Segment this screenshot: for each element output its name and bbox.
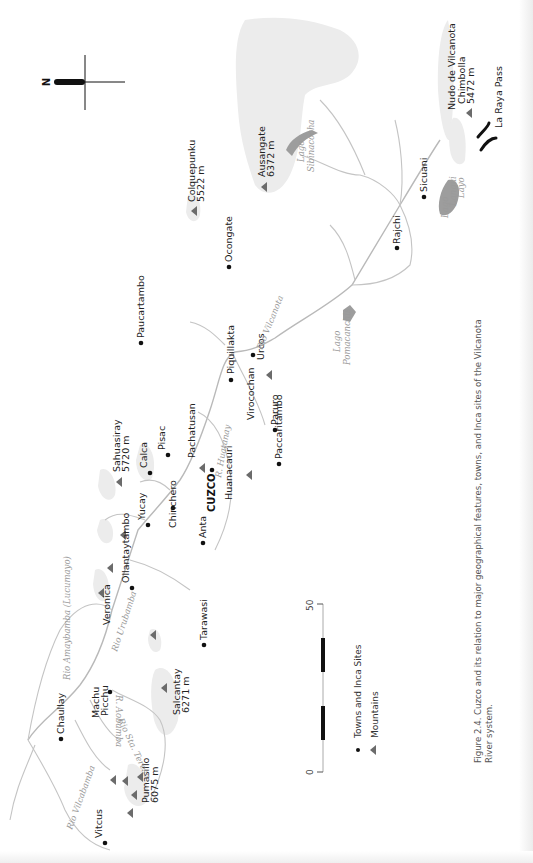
town-markers xyxy=(59,195,427,846)
town-label-sicuani: Sicuani xyxy=(418,158,429,192)
page-edge-shadow xyxy=(519,0,533,863)
mountain-label-pachatusan: Pachatusan xyxy=(186,403,197,458)
town-dot xyxy=(103,841,108,846)
legend-mountains-label: Mountains xyxy=(370,691,380,738)
mountain-elev-salcantay: 6271 m xyxy=(180,677,191,713)
mountain-icon xyxy=(466,108,472,118)
legend: Towns and Inca Sites Mountains xyxy=(353,644,380,755)
town-dot xyxy=(130,586,135,591)
town-dot xyxy=(277,462,282,467)
town-dot xyxy=(148,471,153,476)
lake-label-pomacanchis-1: Lago xyxy=(332,331,342,353)
mountain-elev-sahuasiray: 5720 m xyxy=(120,436,131,472)
mountain-icon xyxy=(107,563,113,573)
pass-label: La Raya Pass xyxy=(493,66,504,128)
town-label-yucay: Yucay xyxy=(136,492,147,521)
mountain-icon xyxy=(266,370,272,380)
town-label-chinchero: Chinchero xyxy=(167,480,178,528)
town-dot xyxy=(227,265,232,270)
figure-caption: Figure 2.4. Cuzco and its relation to ma… xyxy=(473,319,494,763)
north-arrow: N xyxy=(41,55,125,110)
water-labels: Rio Vilcanota R. Huatanay Rio Urubamba R… xyxy=(62,120,466,832)
town-dot xyxy=(146,523,151,528)
town-dot xyxy=(139,341,144,346)
lake-label-langui-3: Layo xyxy=(456,177,466,199)
town-label-chaullay: Chaullay xyxy=(55,692,66,734)
scale-bar: 0 50 xyxy=(305,599,325,775)
town-label-ollantaytambo: Ollantaytambo xyxy=(120,512,131,583)
town-label-cuzco: CUZCO xyxy=(206,473,217,512)
mountain-label-veronica: Veronica xyxy=(101,584,112,625)
town-label-vitcus: Vitcus xyxy=(93,809,104,838)
legend-towns-label: Towns and Inca Sites xyxy=(353,644,363,739)
river-label-amaybamba: Rio Amaybamba (Lucumayo) xyxy=(62,556,72,681)
town-dot xyxy=(422,195,427,200)
scale-start-label: 0 xyxy=(305,769,315,775)
north-label: N xyxy=(41,78,52,86)
mountain-elev-ausangate: 6372 m xyxy=(265,141,276,177)
legend-mountain-icon xyxy=(370,745,376,755)
scale-end-label: 50 xyxy=(305,599,315,611)
town-dot xyxy=(229,378,234,383)
mountain-icon xyxy=(246,470,252,480)
mountain-icon xyxy=(110,775,116,785)
mountain-elev-chimbolla: 5472 m xyxy=(465,68,476,104)
town-label-piquillakta: Piquillakta xyxy=(225,325,236,374)
river-label-urubamba: Rio Urubamba xyxy=(109,590,138,654)
town-dot xyxy=(395,246,400,251)
mountain-icon xyxy=(199,463,205,473)
mountain-label-virocochan: Virocochan xyxy=(245,367,256,420)
lake-label-pomacanchis-2: Pomacanchis xyxy=(342,308,352,366)
legend-town-icon xyxy=(356,748,360,752)
town-label-paccaritambo: Paccaritambo xyxy=(273,394,284,459)
mountain-icon xyxy=(127,808,133,818)
town-label-pisac: Pisac xyxy=(156,426,167,450)
mountain-elev-colquepunku: 5522 m xyxy=(195,166,206,202)
town-label-anta: Anta xyxy=(197,516,208,538)
map-canvas: N xyxy=(0,0,533,863)
town-dot xyxy=(59,737,64,742)
town-dot xyxy=(201,541,206,546)
town-label-rajchi: Rajchi xyxy=(391,215,402,244)
town-label-picchu: Picchu xyxy=(99,685,110,716)
river-label-vilcabamba: Rio Vilcabamba xyxy=(64,764,97,832)
mountain-icon xyxy=(116,477,122,487)
river-label-vilcanota: Rio Vilcanota xyxy=(254,294,285,352)
town-label-paucartambo: Paucartambo xyxy=(135,275,146,338)
town-label-tarawasi: Tarawasi xyxy=(198,599,209,641)
town-dot xyxy=(166,453,171,458)
page-bottom-shadow xyxy=(0,851,533,863)
caption-line-1: Figure 2.4. Cuzco and its relation to ma… xyxy=(473,319,483,763)
town-dot xyxy=(202,643,207,648)
caption-line-2: River system. xyxy=(484,704,494,763)
town-label-calca: Calca xyxy=(138,442,149,468)
lake-label-sibinacocha-2: Sibinacocha xyxy=(306,120,316,172)
lake-label-sibinacocha-1: Lago xyxy=(296,141,306,163)
town-label-ocongate: Ocongate xyxy=(223,216,234,262)
